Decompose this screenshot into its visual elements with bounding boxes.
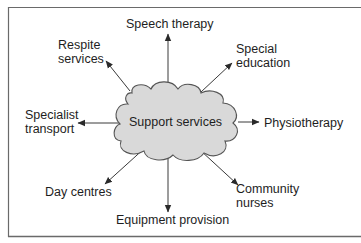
node-speech-therapy: Speech therapy	[126, 17, 214, 31]
arrow-special-education	[201, 63, 232, 92]
node-physiotherapy: Physiotherapy	[264, 116, 343, 130]
node-label-line: Special	[236, 42, 290, 56]
center-node-label: Support services	[129, 115, 222, 129]
node-label-line: services	[58, 52, 104, 66]
node-label-line: transport	[25, 122, 79, 136]
arrow-respite-services	[106, 61, 130, 91]
node-day-centres: Day centres	[45, 185, 112, 199]
node-label-line: Speech therapy	[126, 17, 214, 31]
node-label-line: education	[236, 56, 290, 70]
node-label-line: Day centres	[45, 185, 112, 199]
node-community-nurses: Community nurses	[236, 182, 299, 210]
node-respite-services: Respite services	[58, 38, 104, 66]
node-equipment-provision: Equipment provision	[116, 213, 229, 227]
node-label-line: Respite	[58, 38, 104, 52]
node-special-education: Special education	[236, 42, 290, 70]
node-label-line: nurses	[236, 196, 299, 210]
node-label-line: Equipment provision	[116, 213, 229, 227]
node-specialist-transport: Specialist transport	[25, 108, 79, 136]
node-label-line: Physiotherapy	[264, 116, 343, 130]
node-label-line: Community	[236, 182, 299, 196]
node-label-line: Specialist	[25, 108, 79, 122]
